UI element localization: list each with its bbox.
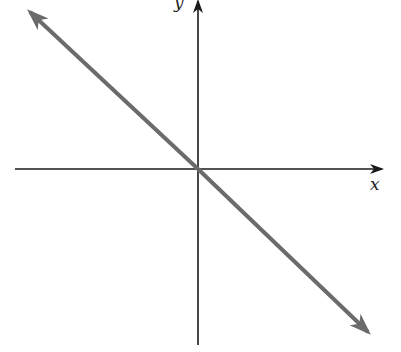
x-axis-label: x [370,174,380,194]
negative-slope-line-lower [198,169,368,332]
coordinate-plane: y x [0,0,401,352]
negative-slope-line [30,12,198,169]
y-axis-label: y [173,0,184,12]
